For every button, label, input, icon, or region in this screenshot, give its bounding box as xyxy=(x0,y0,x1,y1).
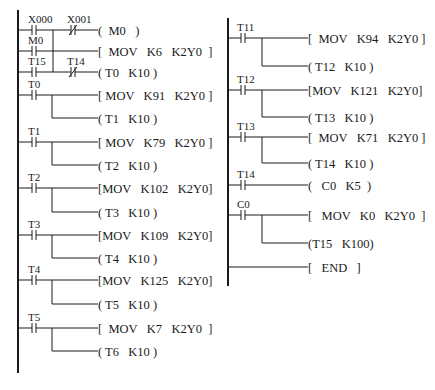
function-block: [ MOV K94 K2Y0 ] xyxy=(308,32,425,46)
function-block: [ MOV K0 K2Y0 ] xyxy=(308,209,425,223)
rung: T12[MOV K121 K2Y0]( T13 K10 ) xyxy=(228,73,422,125)
contact-label: X001 xyxy=(67,13,91,25)
ladder-diagram: X000X001( M0 )M0[ MOV K6 K2Y0 ]T15T14( T… xyxy=(0,0,435,390)
output-coil: ( T6 K10 ) xyxy=(98,345,157,359)
contact-label: T13 xyxy=(237,120,255,132)
output-coil: ( T4 K10 ) xyxy=(98,252,157,266)
output-coil: ( T12 K10 ) xyxy=(308,60,373,74)
contact-label: T1 xyxy=(28,125,40,137)
no-contact-icon xyxy=(32,275,36,285)
function-block: [ END ] xyxy=(308,261,361,275)
no-contact-icon xyxy=(241,210,245,220)
contact-label: T15 xyxy=(28,55,46,67)
rung: [ END ] xyxy=(228,261,361,275)
rung: T15T14( T0 K10 ) xyxy=(18,55,157,80)
output-coil: (T15 K100) xyxy=(308,237,374,251)
function-block: [ MOV K91 K2Y0 ] xyxy=(98,89,212,103)
function-block: [MOV K121 K2Y0] xyxy=(308,84,422,98)
no-contact-icon xyxy=(32,90,36,100)
contact-label: T11 xyxy=(237,21,254,33)
rung: T13[ MOV K71 K2Y0 ]( T14 K10 ) xyxy=(228,120,425,171)
no-contact-icon xyxy=(32,230,36,240)
function-block: [ MOV K79 K2Y0 ] xyxy=(98,136,212,150)
output-coil: ( T1 K10 ) xyxy=(98,112,157,126)
no-contact-icon xyxy=(241,85,245,95)
rung: T1[ MOV K79 K2Y0 ]( T2 K10 ) xyxy=(18,125,212,173)
rung: M0[ MOV K6 K2Y0 ] xyxy=(18,34,212,59)
no-contact-icon xyxy=(32,137,36,147)
no-contact-icon xyxy=(32,67,36,77)
function-block: [MOV K109 K2Y0] xyxy=(98,229,212,243)
output-coil: ( C0 K5 ) xyxy=(308,179,371,193)
contact-label: T2 xyxy=(28,171,40,183)
rung: C0[ MOV K0 K2Y0 ](T15 K100) xyxy=(228,198,425,251)
contact-label: T4 xyxy=(28,263,41,275)
rung: T5[ MOV K7 K2Y0 ]( T6 K10 ) xyxy=(18,311,212,359)
function-block: [ MOV K6 K2Y0 ] xyxy=(98,45,212,59)
no-contact-icon xyxy=(241,132,245,142)
contact-label: T5 xyxy=(28,311,41,323)
contact-label: T3 xyxy=(28,218,41,230)
output-coil: ( T2 K10 ) xyxy=(98,159,157,173)
rung: T14( C0 K5 ) xyxy=(228,168,371,193)
function-block: [ MOV K71 K2Y0 ] xyxy=(308,131,425,145)
rung: T11[ MOV K94 K2Y0 ]( T12 K10 ) xyxy=(228,21,425,74)
no-contact-icon xyxy=(241,180,245,190)
output-coil: ( T14 K10 ) xyxy=(308,157,373,171)
ladder-column-left: X000X001( M0 )M0[ MOV K6 K2Y0 ]T15T14( T… xyxy=(18,10,212,373)
output-coil: ( T13 K10 ) xyxy=(308,111,373,125)
contact-label: C0 xyxy=(237,198,250,210)
rung: T0[ MOV K91 K2Y0 ]( T1 K10 ) xyxy=(18,78,212,126)
function-block: [MOV K125 K2Y0] xyxy=(98,274,212,288)
output-coil: ( M0 ) xyxy=(98,24,139,38)
rung: T4[MOV K125 K2Y0]( T5 K10 ) xyxy=(18,263,212,312)
function-block: [ MOV K7 K2Y0 ] xyxy=(98,322,212,336)
no-contact-icon xyxy=(32,183,36,193)
output-coil: ( T5 K10 ) xyxy=(98,298,157,312)
output-coil: ( T0 K10 ) xyxy=(98,66,157,80)
contact-label: T12 xyxy=(237,73,255,85)
rung: T3[MOV K109 K2Y0]( T4 K10 ) xyxy=(18,218,212,266)
function-block: [MOV K102 K2Y0] xyxy=(98,182,212,196)
contact-label: T14 xyxy=(67,55,85,67)
rung: T2[MOV K102 K2Y0]( T3 K10 ) xyxy=(18,171,212,220)
contact-label: T14 xyxy=(237,168,255,180)
contact-label: T0 xyxy=(28,78,41,90)
ladder-column-right: T11[ MOV K94 K2Y0 ]( T12 K10 )T12[MOV K1… xyxy=(228,18,425,286)
output-coil: ( T3 K10 ) xyxy=(98,206,157,220)
no-contact-icon xyxy=(241,33,245,43)
contact-label: X000 xyxy=(28,13,53,25)
no-contact-icon xyxy=(32,323,36,333)
contact-label: M0 xyxy=(28,34,44,46)
